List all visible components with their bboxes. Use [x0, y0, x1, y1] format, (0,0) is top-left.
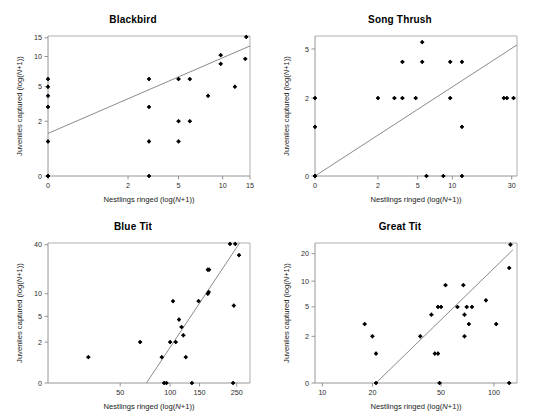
data-point	[176, 119, 180, 123]
data-point	[237, 253, 241, 257]
x-tick-label: 100	[488, 388, 500, 397]
data-point	[505, 96, 509, 100]
panel-great-tit: Great Tit 1020501000251020Nestlings ring…	[267, 207, 533, 414]
y-tick-label: 2	[38, 117, 42, 126]
y-tick-label: 2	[38, 338, 42, 347]
data-point	[420, 40, 424, 44]
data-point	[188, 77, 192, 81]
x-tick-label: 10	[448, 181, 456, 190]
x-tick-label: 250	[231, 388, 243, 397]
data-point	[233, 85, 237, 89]
data-point	[147, 77, 151, 81]
y-tick-label: 2	[305, 332, 309, 341]
x-tick-label: 150	[194, 388, 206, 397]
scatter-plot-song-thrush: 0251030025Nestlings ringed (log(N+1))Juv…	[267, 0, 533, 207]
data-point	[462, 334, 466, 338]
data-point	[507, 381, 511, 385]
data-point	[147, 105, 151, 109]
y-tick-label: 20	[301, 249, 309, 258]
data-point	[46, 77, 50, 81]
data-point	[429, 313, 433, 317]
x-axis-label: Nestlings ringed (log(N+1))	[371, 195, 462, 204]
y-tick-label: 10	[34, 289, 42, 298]
x-tick-label: 2	[126, 181, 130, 190]
trend-line	[48, 46, 250, 133]
data-point	[484, 298, 488, 302]
data-point	[441, 174, 445, 178]
data-point	[467, 322, 471, 326]
x-tick-label: 30	[508, 181, 516, 190]
trend-line	[146, 243, 239, 383]
y-axis-label: Juveniles captured (log(N+1))	[282, 56, 291, 156]
data-point	[374, 351, 378, 355]
y-axis-label: Juveniles captured (log(N+1))	[15, 263, 24, 363]
x-tick-label: 100	[164, 388, 176, 397]
data-point	[46, 94, 50, 98]
y-tick-label: 10	[301, 277, 309, 286]
data-point	[448, 60, 452, 64]
x-tick-label: 0	[313, 181, 317, 190]
y-tick-label: 0	[305, 172, 309, 181]
x-tick-label: 20	[368, 388, 376, 397]
data-point	[219, 62, 223, 66]
scatter-plot-blue-tit: 501001502500251040Nestlings ringed (log(…	[0, 207, 266, 414]
data-point	[188, 119, 192, 123]
data-point	[363, 322, 367, 326]
y-tick-label: 5	[305, 302, 309, 311]
data-point	[46, 174, 50, 178]
data-point	[138, 340, 142, 344]
data-point	[460, 174, 464, 178]
x-axis-label: Nestlings ringed (log(N+1))	[371, 402, 462, 411]
data-point	[460, 125, 464, 129]
data-point	[400, 60, 404, 64]
data-point	[370, 334, 374, 338]
x-axis-label: Nestlings ringed (log(N+1))	[104, 402, 195, 411]
data-point	[392, 96, 396, 100]
data-point	[424, 174, 428, 178]
x-tick-label: 15	[246, 181, 254, 190]
y-tick-label: 2	[305, 94, 309, 103]
y-tick-label: 0	[305, 379, 309, 388]
data-point	[228, 242, 232, 246]
panel-blue-tit: Blue Tit 501001502500251040Nestlings rin…	[0, 207, 266, 414]
data-point	[507, 266, 511, 270]
data-point	[460, 60, 464, 64]
data-point	[176, 139, 180, 143]
data-point	[461, 283, 465, 287]
data-point	[171, 299, 175, 303]
y-tick-label: 10	[34, 52, 42, 61]
data-point	[184, 355, 188, 359]
trend-line	[376, 250, 513, 383]
y-tick-label: 5	[38, 82, 42, 91]
data-point	[448, 96, 452, 100]
data-point	[439, 305, 443, 309]
data-point	[190, 381, 194, 385]
data-point	[46, 139, 50, 143]
data-point	[160, 355, 164, 359]
x-tick-label: 10	[318, 388, 326, 397]
y-tick-label: 0	[38, 172, 42, 181]
x-tick-label: 50	[116, 388, 124, 397]
figure-panel-grid: Blackbird 02510150251015Nestlings ringed…	[0, 0, 533, 414]
data-point	[233, 242, 237, 246]
scatter-plot-blackbird: 02510150251015Nestlings ringed (log(N+1)…	[0, 0, 266, 207]
data-point	[443, 283, 447, 287]
data-point	[511, 96, 515, 100]
y-tick-label: 5	[305, 45, 309, 54]
y-tick-label: 15	[34, 33, 42, 42]
data-point	[400, 96, 404, 100]
data-point	[206, 94, 210, 98]
data-point	[147, 139, 151, 143]
panel-blackbird: Blackbird 02510150251015Nestlings ringed…	[0, 0, 266, 207]
y-axis-label: Juveniles captured (log(N+1))	[282, 263, 291, 363]
data-point	[147, 174, 151, 178]
scatter-plot-great-tit: 1020501000251020Nestlings ringed (log(N+…	[267, 207, 533, 414]
data-point	[177, 317, 181, 321]
x-axis-label: Nestlings ringed (log(N+1))	[104, 195, 195, 204]
data-point	[244, 35, 248, 39]
data-point	[494, 322, 498, 326]
data-point	[46, 85, 50, 89]
x-tick-label: 5	[177, 181, 181, 190]
data-point	[313, 125, 317, 129]
data-point	[164, 381, 168, 385]
